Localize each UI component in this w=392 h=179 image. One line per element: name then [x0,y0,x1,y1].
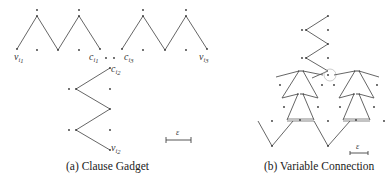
epsilon-label-a: ε [176,128,180,137]
left-tree [258,71,323,146]
caption-clause-gadget: (a) Clause Gadget [66,160,149,172]
zigzag-path-3 [122,16,207,50]
label-v-i2: vi2 [111,142,121,155]
right-tree [314,71,379,146]
diagram-canvas: vi1 ci1 ci3 vi3 ci2 vi2 ε [0,0,392,179]
variable-connection: ε [258,15,385,155]
scale-bar-b: ε [350,142,368,155]
scale-bar-a: ε [166,128,191,143]
label-v-i3: vi3 [199,51,209,64]
top-zigzag [306,16,328,78]
epsilon-label-b: ε [356,142,360,151]
clause-gadget: vi1 ci1 ci3 vi3 ci2 vi2 ε [14,9,209,155]
label-c-i3: ci3 [124,51,134,64]
label-v-i1: vi1 [14,51,24,64]
label-c-i2: ci2 [111,63,121,76]
figure: vi1 ci1 ci3 vi3 ci2 vi2 ε [0,0,392,179]
zigzag-path-2 [76,68,110,150]
label-c-i1: ci1 [89,51,99,64]
caption-variable-connection: (b) Variable Connection [264,160,374,172]
zigzag-path-1 [17,16,100,50]
